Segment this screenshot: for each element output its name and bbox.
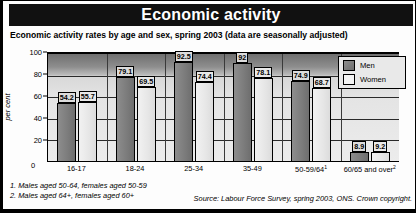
bar-women-16-17: 55.7 [78,102,97,162]
legend-item-women: Women [343,74,401,85]
bar-men-16-17: 54.2 [57,103,76,162]
bar-value-label: 55.7 [79,91,97,102]
legend-label-men: Men [360,61,375,70]
bar-value-label: 8.9 [352,141,366,152]
y-axis: per cent 10080604020 [3,52,47,162]
footnotes: 1. Males aged 50-64, females aged 50-59 … [10,181,414,203]
bar-men-35-49: 92 [233,63,252,162]
bar-group-35-49: 9278.1 [224,54,283,162]
bar-value-label: 54.2 [58,92,76,103]
bar-value-label: 78.1 [254,67,272,78]
bar-men-18-24: 79.1 [116,77,135,162]
x-axis-categories: 16-1718-2425-3435-4950-59/64160/65 and o… [47,164,399,176]
y-tick-label-40: 40 [10,114,42,123]
bar-women-50-59-64: 68.7 [312,88,331,162]
x-axis-label-60-65-and-over: 60/65 and over2 [340,164,399,176]
x-axis-label-50-59-64: 50-59/641 [282,164,341,176]
bar-women-25-34: 74.4 [195,82,214,162]
source-line: Source: Labour Force Survey, spring 2003… [194,194,412,203]
y-tick-label-80: 80 [10,70,42,79]
chart-page: Economic activity Economic activity rate… [0,0,416,213]
bar-group-25-34: 92.574.4 [165,54,224,162]
footnote-1: 1. Males aged 50-64, females aged 50-59 [10,181,414,191]
legend-swatch-women [343,74,355,85]
y-tick-label-60: 60 [10,92,42,101]
bar-value-label: 92 [236,52,248,63]
axis-baseline [48,161,399,162]
bar-women-18-24: 69.5 [137,87,156,162]
page-title: Economic activity [141,6,280,24]
x-axis-label-18-24: 18-24 [106,164,165,176]
bar-group-50-59-64: 74.968.7 [282,54,341,162]
chart-legend: Men Women [338,56,406,89]
bar-men-25-34: 92.5 [174,62,193,162]
bar-value-label: 69.5 [137,76,155,87]
chart-subtitle: Economic activity rates by age and sex, … [10,30,410,40]
legend-swatch-men [343,60,355,71]
bar-value-label: 9.2 [373,141,387,152]
bar-value-label: 92.5 [175,51,193,62]
x-axis-label-35-49: 35-49 [223,164,282,176]
bar-value-label: 68.7 [313,77,331,88]
bar-women-35-49: 78.1 [254,78,273,162]
y-axis-zero-label: 0 [31,161,35,170]
x-axis-label-25-34: 25-34 [164,164,223,176]
bar-men-50-59-64: 74.9 [291,81,310,162]
bar-value-label: 74.4 [196,71,214,82]
footnote-marker: 2 [393,164,396,170]
footnote-marker: 1 [324,164,327,170]
y-tick-label-100: 100 [10,48,42,57]
y-tick-label-20: 20 [10,136,42,145]
bar-group-18-24: 79.169.5 [107,54,166,162]
bar-value-label: 79.1 [116,66,134,77]
bar-group-16-17: 54.255.7 [48,54,107,162]
bar-value-label: 74.9 [292,70,310,81]
x-axis-label-16-17: 16-17 [47,164,106,176]
legend-item-men: Men [343,60,401,71]
page-title-banner: Economic activity [9,4,413,26]
legend-label-women: Women [360,75,386,84]
